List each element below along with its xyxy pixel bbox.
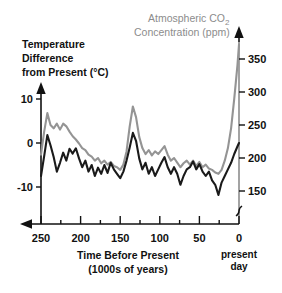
x-tick-label-200: 200 bbox=[71, 232, 89, 244]
left-axis-title-line1: Temperature bbox=[22, 38, 85, 50]
climate-chart-figure: Temperature Difference from Present (°C)… bbox=[0, 0, 282, 293]
x-axis-title-line1: Time Before Present bbox=[77, 249, 179, 261]
right-axis-title-line2: Concentration (ppm) bbox=[134, 26, 230, 38]
right-tick-label-350: 350 bbox=[248, 53, 266, 65]
right-tick-label-150: 150 bbox=[248, 185, 266, 197]
right-tick-label-250: 250 bbox=[248, 119, 266, 131]
present-day-note-line1: present bbox=[221, 249, 258, 260]
right-tick-label-300: 300 bbox=[248, 86, 266, 98]
x-tick-label-150: 150 bbox=[111, 232, 129, 244]
x-tick-label-100: 100 bbox=[151, 232, 169, 244]
present-day-note-line2: day bbox=[230, 261, 248, 272]
x-tick-label-0: 0 bbox=[236, 232, 242, 244]
left-axis-title-line2: Difference bbox=[22, 52, 74, 64]
right-tick-label-200: 200 bbox=[248, 152, 266, 164]
x-tick-label-50: 50 bbox=[193, 232, 205, 244]
x-tick-label-250: 250 bbox=[32, 232, 50, 244]
left-tick-label-0: 0 bbox=[27, 137, 33, 149]
x-axis-title-line2: (1000s of years) bbox=[88, 263, 167, 275]
left-tick-label-10: 10 bbox=[21, 93, 33, 105]
left-tick-label-neg10: -10 bbox=[17, 181, 33, 193]
chart-canvas: Temperature Difference from Present (°C)… bbox=[0, 0, 282, 293]
left-axis-title-line3: from Present (°C) bbox=[22, 66, 108, 78]
